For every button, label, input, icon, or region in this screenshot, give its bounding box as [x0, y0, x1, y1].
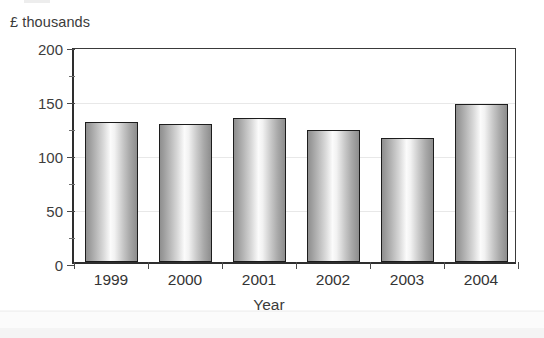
bar-2003 — [381, 138, 434, 262]
x-axis-tick-label: 2000 — [168, 271, 202, 289]
x-axis-tick-label: 2004 — [464, 271, 498, 289]
y-axis-minor-tick — [69, 184, 75, 185]
x-axis-tick-label: 2002 — [316, 271, 350, 289]
x-axis-tick — [370, 262, 371, 269]
y-axis-tick — [67, 103, 75, 104]
y-axis-tick — [67, 49, 75, 50]
x-axis-tick — [296, 262, 297, 269]
y-axis-minor-tick — [69, 238, 75, 239]
gridline — [74, 211, 515, 212]
y-axis-minor-tick — [69, 76, 75, 77]
y-axis-tick-label: 50 — [46, 203, 63, 220]
x-axis-tick-label: 2003 — [390, 271, 424, 289]
y-axis-tick-label: 100 — [38, 149, 63, 166]
x-axis-tick — [444, 262, 445, 269]
page-card-shadow — [0, 328, 544, 338]
gridline — [74, 157, 515, 158]
x-axis-tick — [518, 262, 519, 269]
y-axis-unit-label: £ thousands — [10, 14, 90, 30]
plot-area: 050100150200199920002001200220032004 — [72, 48, 516, 264]
scan-artifact-top — [24, 0, 50, 3]
x-axis-tick — [74, 262, 75, 269]
y-axis-tick-label: 150 — [38, 95, 63, 112]
page-card-edge — [0, 311, 544, 338]
bar-1999 — [85, 122, 138, 262]
y-axis-tick-label: 200 — [38, 41, 63, 58]
bar-2001 — [233, 118, 286, 262]
x-axis-tick-label: 2001 — [242, 271, 276, 289]
x-axis-tick — [148, 262, 149, 269]
y-axis-tick — [67, 211, 75, 212]
y-axis-tick-label: 0 — [55, 257, 63, 274]
y-axis-tick — [67, 157, 75, 158]
bar-2000 — [159, 124, 212, 262]
bar-2002 — [307, 130, 360, 262]
bar-2004 — [455, 104, 508, 262]
x-axis-tick-label: 1999 — [94, 271, 128, 289]
gridline — [74, 103, 515, 104]
x-axis-tick — [222, 262, 223, 269]
y-axis-minor-tick — [69, 130, 75, 131]
